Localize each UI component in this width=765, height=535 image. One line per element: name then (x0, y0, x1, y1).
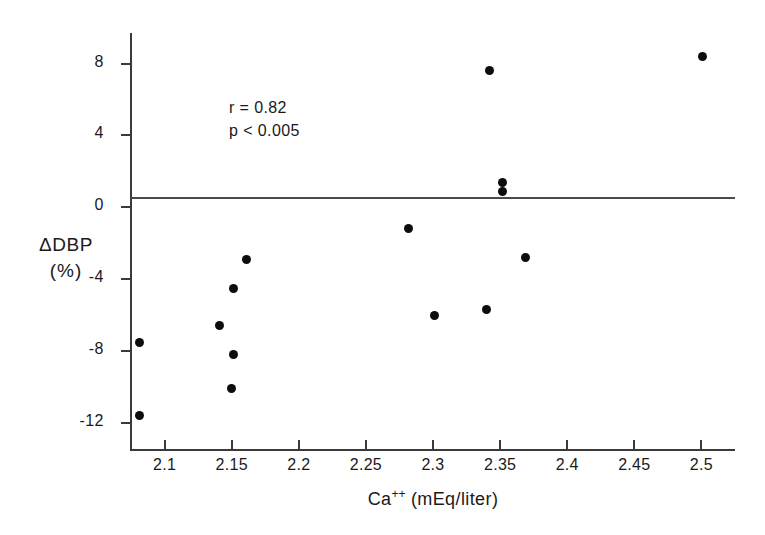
y-axis-tick (121, 206, 131, 208)
data-point (135, 338, 144, 347)
x-axis-tick-label: 2.2 (264, 456, 334, 474)
x-axis-label-superscript: ++ (391, 487, 405, 501)
scatter-plot-figure: 840-4-8-12 2.12.152.22.252.32.352.42.452… (0, 0, 765, 535)
x-axis-tick-label: 2.15 (197, 456, 267, 474)
x-axis-tick-label: 2.45 (599, 456, 669, 474)
y-axis-label-text: ΔDBP (39, 234, 93, 255)
y-axis-tick (121, 63, 131, 65)
p-value-label: p < 0.005 (229, 119, 300, 142)
data-point (698, 52, 707, 61)
data-point (229, 284, 238, 293)
data-point (498, 178, 507, 187)
x-axis-tick-label: 2.3 (398, 456, 468, 474)
y-axis-tick (121, 350, 131, 352)
data-point (227, 384, 236, 393)
data-point (135, 411, 144, 420)
data-point (242, 255, 251, 264)
data-point (404, 224, 413, 233)
y-axis-tick-label: -12 (62, 412, 104, 430)
data-point (229, 350, 238, 359)
y-axis-tick (121, 278, 131, 280)
statistics-annotation: r = 0.82 p < 0.005 (229, 96, 300, 142)
data-point (521, 253, 530, 262)
x-axis-tick-label: 2.35 (465, 456, 535, 474)
data-point (498, 187, 507, 196)
x-axis-label-base: Ca (368, 489, 392, 509)
x-axis-label-units: (mEq/liter) (406, 489, 499, 509)
data-point (215, 321, 224, 330)
y-axis-tick-label: 8 (62, 53, 104, 71)
x-axis-tick-label: 2.4 (532, 456, 602, 474)
y-axis-tick-label: 0 (62, 196, 104, 214)
y-axis-label: ΔDBP (%) (14, 232, 118, 283)
y-axis-tick (121, 134, 131, 136)
correlation-coefficient-label: r = 0.82 (229, 96, 300, 119)
y-axis-tick-label: 4 (62, 124, 104, 142)
y-axis-tick-label: -8 (62, 340, 104, 358)
data-point (485, 66, 494, 75)
x-axis-tick-label: 2.25 (331, 456, 401, 474)
x-axis-tick-label: 2.5 (666, 456, 736, 474)
data-point (482, 305, 491, 314)
y-axis-tick (121, 422, 131, 424)
y-axis-label-unit: (%) (14, 258, 118, 284)
x-axis-tick-label: 2.1 (130, 456, 200, 474)
data-point (430, 311, 439, 320)
x-axis-label: Ca++ (mEq/liter) (131, 487, 735, 510)
plot-area (131, 33, 735, 450)
